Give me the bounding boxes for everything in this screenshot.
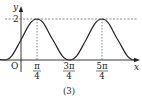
origin-label: O <box>11 61 18 71</box>
x-tick-denominator: 4 <box>34 71 39 81</box>
x-tick-numerator: 3π <box>64 61 75 71</box>
y-axis-label: y <box>12 2 19 12</box>
sinusoid-graph: y 2 O x π 4 3π 4 5π 4 (3) <box>0 0 142 98</box>
sinusoid-curve <box>0 19 135 60</box>
x-tick-pi-over-4: π 4 <box>33 61 41 81</box>
x-axis-label: x <box>134 62 139 72</box>
x-tick-5pi-over-4: 5π 4 <box>96 61 108 81</box>
x-tick-numerator: 5π <box>97 61 108 71</box>
y-tick-2: 2 <box>13 14 19 24</box>
x-tick-3pi-over-4: 3π 4 <box>63 61 75 81</box>
x-tick-denominator: 4 <box>99 71 104 81</box>
figure-caption: (3) <box>63 86 75 96</box>
y-axis-arrow-icon <box>19 6 23 12</box>
x-tick-denominator: 4 <box>66 71 71 81</box>
x-tick-numerator: π <box>34 61 40 71</box>
